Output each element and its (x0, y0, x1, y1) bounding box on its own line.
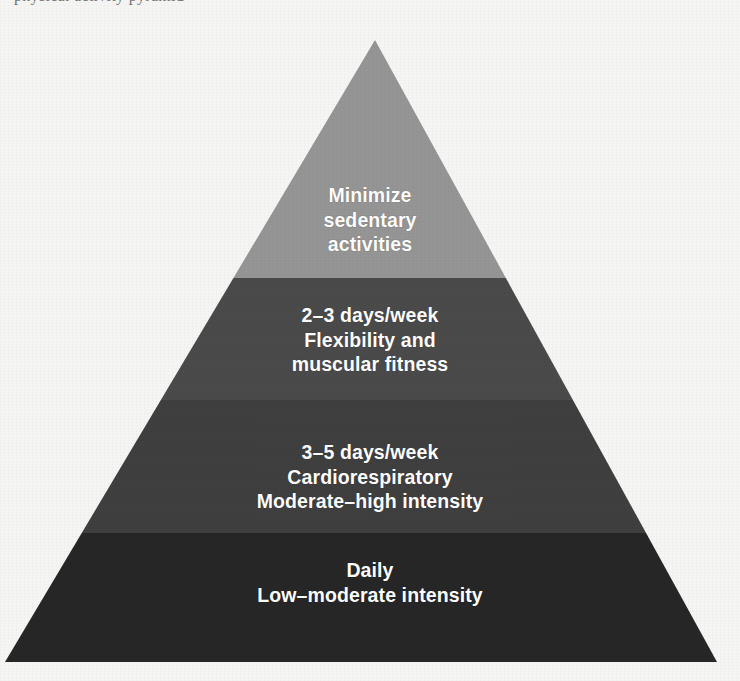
pyramid-tier-3-label: 3–5 days/week Cardiorespiratory Moderate… (0, 440, 740, 514)
pyramid-tier-2-label: 2–3 days/week Flexibility and muscular f… (0, 303, 740, 377)
cropped-header-text: physical activity pyramid (14, 0, 184, 5)
cropped-header-text-fragment: physical activity pyramid (0, 0, 740, 11)
pyramid-tier-4-label: Daily Low–moderate intensity (0, 558, 740, 607)
pyramid-tier-1-label: Minimize sedentary activities (0, 183, 740, 257)
